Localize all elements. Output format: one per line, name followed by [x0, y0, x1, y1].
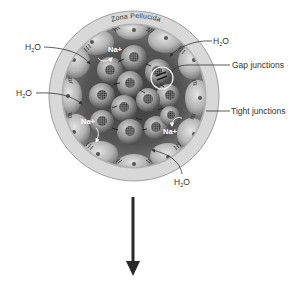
h2o-label-top-left: H2O	[25, 42, 41, 53]
h2o-label-bottom: H2O	[174, 177, 190, 188]
na-label-right: Na+	[163, 127, 178, 136]
h2o-label-top-right: H2O	[213, 36, 229, 47]
down-arrow-icon	[126, 197, 140, 276]
gap-junctions-label: Gap junctions	[232, 60, 284, 70]
na-label-left: Na+	[81, 117, 96, 126]
blastocyst-diagram: Zona Pellucida	[0, 0, 307, 290]
na-label-top: Na+	[108, 45, 123, 54]
tight-junctions-label: Tight junctions	[231, 106, 286, 116]
h2o-label-mid-left: H2O	[16, 88, 32, 99]
